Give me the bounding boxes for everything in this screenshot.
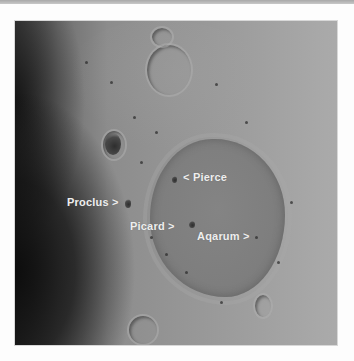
surface-speck <box>220 301 223 304</box>
crater-pierce <box>172 176 177 183</box>
surface-speck <box>110 81 113 84</box>
crater-picard <box>189 221 195 228</box>
crater-bottom-right <box>253 293 273 319</box>
label-picard: Picard > <box>130 220 175 232</box>
surface-speck <box>140 161 143 164</box>
surface-speck <box>277 261 280 264</box>
label-proclus: Proclus > <box>67 196 119 208</box>
surface-speck <box>245 121 248 124</box>
moon-photo: < Pierce Proclus > Picard > Aqarum > <box>15 21 337 345</box>
crater-left-rim <box>101 129 127 161</box>
surface-speck <box>150 236 153 239</box>
surface-speck <box>85 61 88 64</box>
surface-speck <box>215 83 218 86</box>
surface-speck <box>155 131 158 134</box>
surface-speck <box>255 236 258 239</box>
crater-large-upper <box>145 43 193 97</box>
surface-speck <box>290 201 293 204</box>
crater-bottom-ring <box>127 314 159 345</box>
surface-speck <box>133 116 136 119</box>
top-border-strip <box>0 0 354 4</box>
crater-upper-small <box>150 26 174 48</box>
surface-speck <box>185 271 188 274</box>
crater-proclus <box>125 199 131 208</box>
label-pierce: < Pierce <box>183 171 227 183</box>
label-aqarum: Aqarum > <box>197 230 250 242</box>
surface-speck <box>165 253 168 256</box>
